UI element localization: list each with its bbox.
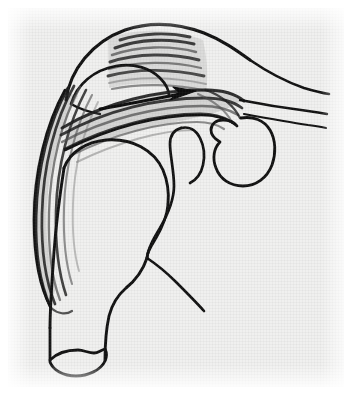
clavicle-upper-contour — [250, 60, 329, 94]
supraspinatus-muscle-belly — [108, 31, 207, 92]
figure-root: deltoid muscle supraspinatus muscle bell… — [0, 0, 352, 395]
bicipital-groove-lateral — [147, 128, 181, 258]
humeral-head-dome — [64, 140, 168, 204]
humeral-head-group — [64, 127, 204, 258]
shoulder-anatomy-drawing — [8, 8, 344, 387]
shaft-cut-end-ellipse — [50, 349, 107, 376]
illustration-paper — [8, 8, 344, 387]
greater-tuberosity-crest — [181, 127, 204, 183]
spine-lower-taper — [244, 114, 326, 128]
clavicle-spine-lines — [240, 100, 327, 128]
shaft-lateral-border — [105, 258, 147, 360]
spine-upper-taper — [240, 100, 327, 114]
deltoid-insertion-line — [147, 258, 204, 311]
